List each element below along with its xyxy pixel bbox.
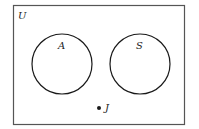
set-a-label: A [57, 40, 65, 51]
point-j-dot [97, 106, 101, 110]
venn-diagram: U A S J [0, 0, 199, 129]
set-s-label: S [136, 40, 143, 51]
universe-label: U [18, 10, 27, 21]
point-j-label: J [103, 102, 110, 113]
